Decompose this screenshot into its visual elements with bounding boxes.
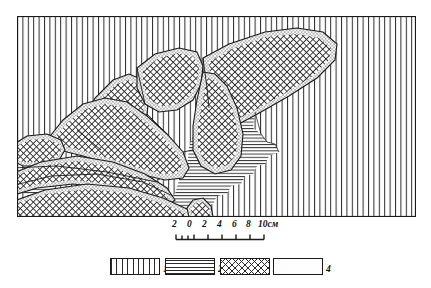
scale-tick-0: 2 [172,219,177,229]
scale-tick-5: 8 [246,219,251,229]
legend-swatch-cross-hatch [220,258,270,275]
cross-section-figure [17,16,416,217]
scale-tick-2: 2 [202,219,207,229]
scale-bar-group: 2 0 2 4 6 8 10см [150,219,310,245]
scale-tick-3: 4 [217,219,222,229]
legend-swatch-stipple [273,258,323,275]
legend-item-1: 1 [110,256,172,280]
legend: 1 2 3 4 [0,256,431,284]
scale-tick-labels: 2 0 2 4 6 8 10см [150,219,310,232]
scale-bar-svg [150,232,310,245]
legend-item-2: 2 [165,256,227,280]
scale-tick-6: 10см [258,219,278,229]
cross-section-svg [17,16,416,217]
scale-tick-1: 0 [187,219,192,229]
legend-swatch-vertical-lines [110,258,160,275]
figure-root: 2 0 2 4 6 8 10см 1 [0,0,431,288]
legend-item-4: 4 [273,256,335,280]
scale-tick-4: 6 [232,219,237,229]
legend-swatch-horizontal-lines [165,258,215,275]
legend-label-4: 4 [326,264,331,274]
